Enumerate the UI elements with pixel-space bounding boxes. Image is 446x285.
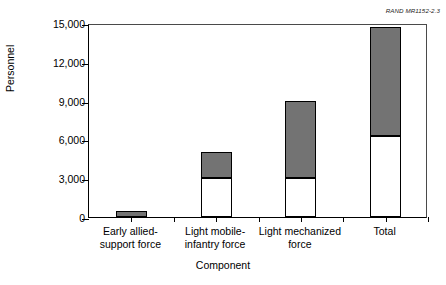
x-axis-category-label: Total <box>320 225 446 238</box>
bar-2 <box>201 23 232 217</box>
x-axis-tick-mark <box>131 217 132 222</box>
plot-area: 03,0006,0009,00012,00015,000 <box>88 24 427 218</box>
y-axis-tick-label: 9,000 <box>59 96 85 108</box>
bar-segment-upper <box>201 152 232 178</box>
bar-3 <box>285 23 316 217</box>
bar-segment-upper <box>285 101 316 179</box>
x-axis-tick-mark <box>301 217 302 222</box>
x-axis-tick-mark <box>386 217 387 222</box>
x-axis-tick-mark <box>343 217 344 222</box>
x-axis-category-label-line1: Total <box>374 225 396 237</box>
x-axis-tick-mark <box>216 217 217 222</box>
y-axis-tick-label: 6,000 <box>59 134 85 146</box>
bar-segment-lower <box>201 178 232 217</box>
y-axis-tick-label: 0 <box>79 212 85 224</box>
bar-segment-upper <box>370 27 401 136</box>
bar-1 <box>116 23 147 217</box>
x-axis-category-label-line2: force <box>235 238 365 251</box>
x-axis-title: Component <box>0 259 446 271</box>
figure-root: RAND MR1152-2.3 Personnel 03,0006,0009,0… <box>0 0 446 285</box>
bar-segment-lower <box>370 136 401 217</box>
bar-segment-upper <box>116 211 147 217</box>
source-tag: RAND MR1152-2.3 <box>386 7 440 14</box>
y-axis-tick-label: 3,000 <box>59 173 85 185</box>
y-axis-tick-label: 15,000 <box>53 18 85 30</box>
bar-segment-lower <box>285 178 316 217</box>
x-axis-tick-mark <box>428 217 429 222</box>
y-axis-tick-label: 12,000 <box>53 57 85 69</box>
bar-4 <box>370 23 401 217</box>
x-axis-tick-mark <box>259 217 260 222</box>
y-axis-title: Personnel <box>4 45 16 92</box>
x-axis-tick-mark <box>174 217 175 222</box>
